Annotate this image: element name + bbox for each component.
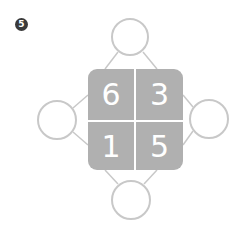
grid-cell-top-right: 3	[136, 69, 183, 120]
connector-line	[105, 170, 118, 184]
connector-line	[73, 95, 88, 108]
answer-circle-top[interactable]	[112, 19, 148, 55]
answer-circle-left[interactable]	[38, 101, 76, 139]
grid-cell-bottom-left: 1	[88, 122, 134, 170]
answer-circle-right[interactable]	[190, 100, 228, 138]
answer-circle-bottom[interactable]	[112, 181, 150, 219]
connector-line	[73, 132, 88, 145]
connector-line	[183, 131, 193, 145]
connector-line	[143, 52, 157, 69]
connector-line	[144, 170, 157, 184]
grid-cell-top-left: 6	[88, 69, 134, 120]
grid-cell-bottom-right: 5	[136, 122, 183, 170]
connector-line	[105, 52, 118, 69]
connector-line	[183, 95, 193, 107]
